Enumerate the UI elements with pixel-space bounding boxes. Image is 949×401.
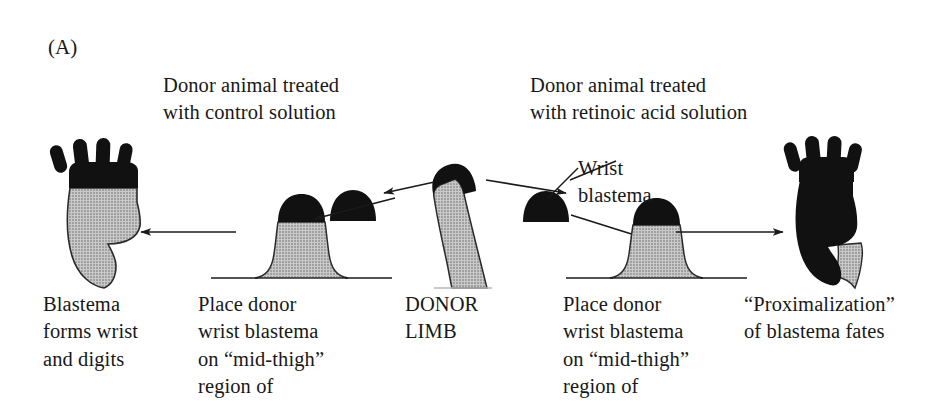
caption-donor-limb: DONOR LIMB bbox=[405, 291, 478, 346]
result-right-limb bbox=[782, 135, 863, 288]
digit-1 bbox=[48, 144, 69, 175]
caption-proximalization-of-blastema-fates: “Proximalization” of blastema fates bbox=[744, 291, 895, 346]
thigh-stump-grey-left bbox=[255, 222, 348, 278]
host-thigh-right bbox=[566, 198, 747, 278]
caption-place-donor-blastema-right: Place donor wrist blastema on “mid-thigh… bbox=[563, 291, 689, 401]
figure-panel-a: (A) Donor animal treated with control so… bbox=[0, 0, 949, 401]
digit-3 bbox=[95, 138, 110, 171]
panel-label: (A) bbox=[48, 34, 77, 61]
caption-blastema-forms-wrist-and-digits: Blastema forms wrist and digits bbox=[43, 291, 138, 373]
label-wrist-blastema: Wrist blastema bbox=[578, 155, 652, 208]
header-retinoic-acid-solution: Donor animal treated with retinoic acid … bbox=[530, 72, 747, 126]
free-blastema-right bbox=[523, 191, 569, 222]
limb-shaft-grey bbox=[67, 188, 140, 288]
result-right-digit-3 bbox=[826, 136, 842, 171]
donor-shaft-grey bbox=[434, 179, 487, 288]
thigh-stump-grey-right bbox=[610, 225, 703, 278]
caption-place-donor-blastema-left: Place donor wrist blastema on “mid-thigh… bbox=[198, 291, 324, 401]
header-control-solution: Donor animal treated with control soluti… bbox=[163, 72, 339, 126]
donor-limb bbox=[432, 164, 492, 288]
result-right-digit-1 bbox=[782, 141, 803, 173]
result-left-limb bbox=[48, 138, 140, 288]
leader-line-wrist-blastema bbox=[548, 168, 578, 198]
arrow-right-blastema-to-host bbox=[571, 215, 641, 237]
